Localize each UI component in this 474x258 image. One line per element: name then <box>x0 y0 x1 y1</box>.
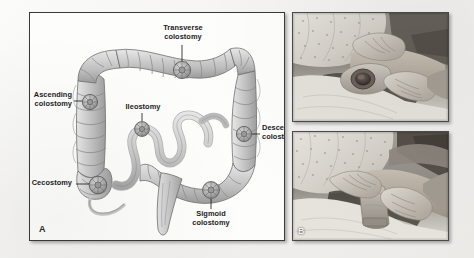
label-transverse-line2: colostomy <box>164 32 201 41</box>
stoma-cecostomy <box>89 176 107 194</box>
stoma-sigmoid <box>203 182 220 199</box>
label-cecostomy-text: Cecostomy <box>32 178 72 187</box>
rectum <box>157 173 182 235</box>
photo-top-svg <box>293 13 448 121</box>
label-ascending-colostomy: Ascending colostomy <box>29 91 72 108</box>
panel-b-letter: B <box>298 226 305 236</box>
stoma-ileostomy <box>135 122 150 137</box>
descending-colon <box>232 71 260 172</box>
stoma-ascending <box>82 94 97 109</box>
panel-b-photo-top <box>292 12 449 122</box>
stoma-transverse <box>173 61 190 78</box>
panel-b-photo-bottom: B <box>292 131 449 241</box>
label-sigmoid-line2: colostomy <box>192 218 229 227</box>
figure-root: Transverse colostomy Ascending colostomy… <box>0 0 474 258</box>
label-ileostomy: Ileostomy <box>121 103 165 112</box>
stoma-descending <box>236 126 251 141</box>
ascending-colon <box>73 73 106 177</box>
appendix <box>89 199 124 214</box>
panel-a-diagram: Transverse colostomy Ascending colostomy… <box>29 12 285 241</box>
label-descending-line2: colostomy <box>262 132 285 141</box>
label-sigmoid-colostomy: Sigmoid colostomy <box>182 210 240 227</box>
colon-diagram-svg <box>30 13 284 240</box>
panel-a-letter: A <box>39 224 46 234</box>
splenic-flexure <box>230 48 255 75</box>
label-ascending-line2: colostomy <box>35 99 72 108</box>
label-cecostomy: Cecostomy <box>29 179 72 188</box>
label-ileostomy-text: Ileostomy <box>126 102 161 111</box>
photo-bottom-svg <box>293 132 448 240</box>
label-transverse-colostomy: Transverse colostomy <box>154 24 212 41</box>
label-descending-colostomy: Descending colostomy <box>262 124 285 141</box>
